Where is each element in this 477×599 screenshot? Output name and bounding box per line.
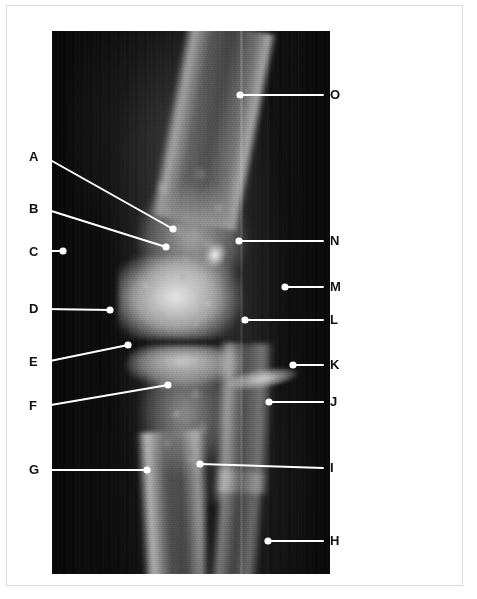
annotation-label-j: J [330, 395, 337, 408]
film-grain-texture [52, 31, 330, 574]
annotation-label-h: H [330, 534, 340, 547]
annotation-label-o: O [330, 88, 340, 101]
page-sheet [6, 5, 463, 586]
annotation-label-a: A [29, 150, 39, 163]
annotation-label-i: I [330, 461, 334, 474]
annotation-label-g: G [29, 463, 39, 476]
annotation-label-b: B [29, 202, 39, 215]
annotation-label-d: D [29, 302, 39, 315]
annotation-label-k: K [330, 358, 340, 371]
annotation-label-m: M [330, 280, 341, 293]
annotation-label-n: N [330, 234, 340, 247]
annotation-label-e: E [29, 355, 38, 368]
annotation-label-l: L [330, 313, 338, 326]
xray-radiograph-image [52, 31, 330, 574]
annotation-label-c: C [29, 245, 39, 258]
annotation-label-f: F [29, 399, 37, 412]
